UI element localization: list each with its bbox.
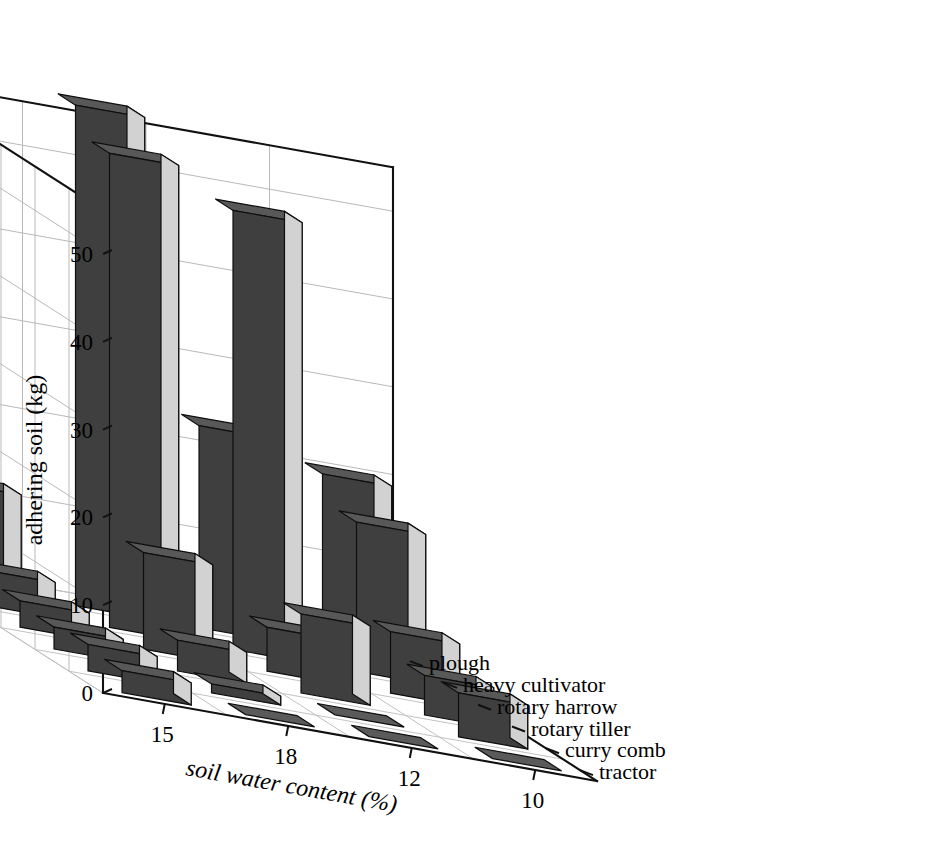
x-tick-label: 15 [151,722,174,747]
x-tick-label: 10 [521,788,544,813]
bar-right-face [284,211,302,661]
wall-top-edge-back [0,79,393,167]
bar-right-face [352,615,370,705]
gridline-back-wall-horizontal [0,299,393,387]
y-tick-label: 50 [70,242,93,267]
x-tick-mark [533,770,535,780]
three-d-bar-chart: 01020304050 15181210 ploughheavy cultiva… [0,0,939,844]
y-tick-label: 0 [82,681,94,706]
x-tick-label: 18 [274,744,297,769]
x-tick-mark [286,726,288,736]
y-tick-label: 40 [70,330,93,355]
gridline-back-wall-horizontal [0,387,393,475]
y-tick-label: 30 [70,418,93,443]
x-tick-mark [163,704,165,714]
x-tick-label: 12 [398,766,421,791]
depth-axis-label: tractor [599,759,657,784]
gridline-back-wall-horizontal [0,211,393,299]
y-tick-mark [103,689,112,693]
gridline-back-wall-horizontal [0,123,393,211]
y-axis-title: adhering soil (kg) [21,375,47,546]
y-tick-label: 20 [70,505,93,530]
chart-figure: 01020304050 15181210 ploughheavy cultiva… [0,0,939,844]
x-tick-mark [410,748,412,758]
y-tick-label: 10 [70,593,93,618]
